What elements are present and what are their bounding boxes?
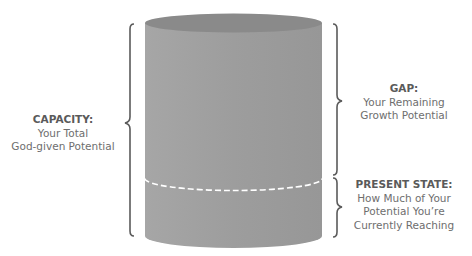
gap-line: Growth Potential bbox=[336, 109, 472, 123]
present-state-title: PRESENT STATE: bbox=[336, 178, 472, 192]
present-state-line: Potential You’re bbox=[336, 205, 472, 219]
capacity-brace bbox=[125, 24, 134, 236]
capacity-line: God-given Potential bbox=[0, 140, 126, 154]
present-state-line: How Much of Your bbox=[336, 192, 472, 206]
present-state-label: PRESENT STATE: How Much of Your Potentia… bbox=[336, 178, 472, 232]
capacity-label: CAPACITY: Your Total God-given Potential bbox=[0, 113, 126, 154]
cylinder-top bbox=[145, 14, 322, 33]
cylinder-body bbox=[145, 23, 322, 248]
gap-label: GAP: Your Remaining Growth Potential bbox=[336, 82, 472, 123]
gap-title: GAP: bbox=[336, 82, 472, 96]
capacity-title: CAPACITY: bbox=[0, 113, 126, 127]
present-state-line: Currently Reaching bbox=[336, 219, 472, 233]
gap-line: Your Remaining bbox=[336, 96, 472, 110]
capacity-line: Your Total bbox=[0, 127, 126, 141]
